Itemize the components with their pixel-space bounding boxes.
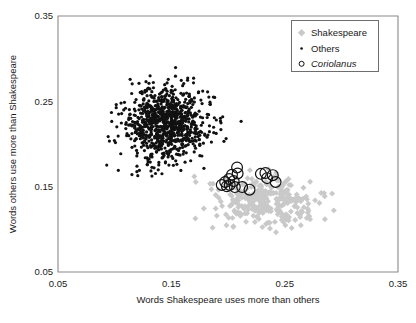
data-point — [186, 128, 189, 131]
data-point — [154, 104, 157, 107]
data-point — [174, 75, 177, 78]
data-point — [142, 102, 145, 105]
data-point — [208, 124, 211, 127]
data-point — [157, 144, 160, 147]
data-point — [305, 201, 311, 207]
data-point — [184, 134, 187, 137]
data-point — [125, 121, 128, 124]
data-point — [180, 109, 183, 112]
data-point — [173, 125, 176, 128]
data-point — [187, 120, 190, 123]
data-point — [149, 160, 152, 163]
data-point — [172, 164, 175, 167]
data-point — [140, 107, 143, 110]
data-point — [151, 113, 154, 116]
data-point — [186, 137, 189, 140]
legend-label-shakespeare: Shakespeare — [311, 27, 367, 38]
data-point — [193, 179, 199, 185]
data-point — [128, 108, 131, 111]
data-point — [152, 110, 155, 113]
data-point — [174, 103, 177, 106]
data-point — [176, 98, 179, 101]
data-point — [180, 114, 183, 117]
data-point — [225, 137, 228, 140]
data-point — [139, 112, 142, 115]
data-point — [179, 169, 182, 172]
data-point — [186, 114, 189, 117]
data-point — [108, 139, 111, 142]
data-point — [167, 124, 170, 127]
data-point — [172, 147, 175, 150]
data-point — [208, 186, 214, 192]
data-point — [183, 137, 186, 140]
y-tick-label: 0.15 — [35, 181, 54, 192]
data-point — [143, 149, 146, 152]
data-point — [140, 145, 143, 148]
y-axis-title: Words others use more than Shakespeare — [7, 55, 18, 233]
data-point — [166, 155, 169, 158]
data-point — [119, 152, 122, 155]
data-point — [191, 116, 194, 119]
data-point — [193, 96, 196, 99]
data-point — [134, 98, 137, 101]
data-point — [150, 90, 153, 93]
data-point — [219, 128, 222, 131]
data-point — [138, 134, 141, 137]
data-point — [157, 161, 160, 164]
data-point — [201, 90, 204, 93]
data-point — [181, 128, 184, 131]
data-point — [198, 143, 201, 146]
data-point — [163, 115, 166, 118]
y-tick-label: 0.35 — [35, 10, 54, 21]
data-point — [166, 111, 169, 114]
data-point — [144, 80, 147, 83]
data-point — [243, 219, 249, 225]
data-point — [142, 119, 145, 122]
data-point — [194, 135, 197, 138]
data-point — [175, 163, 178, 166]
data-point — [140, 115, 143, 118]
data-point — [207, 95, 210, 98]
data-point — [292, 217, 298, 223]
data-point — [245, 175, 251, 181]
data-point — [174, 118, 177, 121]
data-point — [143, 123, 146, 126]
data-point — [120, 121, 123, 124]
data-point — [189, 99, 192, 102]
data-point — [210, 225, 216, 231]
data-point — [181, 125, 184, 128]
data-point — [193, 138, 196, 141]
data-point — [206, 116, 209, 119]
data-point — [139, 91, 142, 94]
data-point — [192, 81, 195, 84]
data-point — [329, 191, 335, 197]
data-point — [195, 127, 198, 130]
x-tick-label: 0.05 — [49, 278, 68, 289]
data-point — [181, 139, 184, 142]
data-point — [182, 82, 185, 85]
data-point — [158, 99, 161, 102]
data-point — [134, 138, 137, 141]
legend-label-coriolanus: Coriolanus — [311, 58, 357, 69]
data-point — [129, 137, 132, 140]
data-point — [125, 132, 128, 135]
data-point — [184, 144, 187, 147]
data-point — [150, 166, 153, 169]
data-point — [205, 136, 208, 139]
x-tick-label: 0.25 — [275, 278, 294, 289]
data-point — [193, 100, 196, 103]
data-point — [219, 203, 225, 209]
data-point — [115, 125, 118, 128]
data-point — [110, 120, 113, 123]
data-point — [164, 160, 167, 163]
data-point — [152, 81, 155, 84]
data-point — [185, 91, 188, 94]
x-axis-tick-labels: 0.050.150.250.35 — [49, 278, 408, 289]
data-point — [149, 110, 152, 113]
data-point — [130, 92, 133, 95]
data-point — [147, 82, 150, 85]
data-point — [150, 138, 153, 141]
data-point — [145, 144, 148, 147]
data-point — [247, 167, 253, 173]
data-point — [117, 169, 120, 172]
